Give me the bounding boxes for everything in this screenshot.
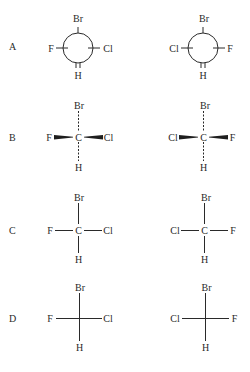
row-c: C Br C F Cl H Br C Cl F H	[9, 192, 236, 265]
atom-right: F	[230, 132, 236, 143]
row-d: D Br F Cl H Br Cl F H	[9, 282, 238, 353]
line-structure-right: Br C Cl F H	[170, 192, 236, 265]
newman-left: Br F Cl H	[48, 13, 113, 81]
atom-bottom: H	[199, 70, 206, 81]
atom-right: F	[227, 43, 233, 54]
wedge-bond-right	[209, 135, 228, 140]
atom-left: F	[48, 43, 54, 54]
wedge-bond-left	[54, 135, 73, 140]
atom-bottom: H	[76, 342, 83, 353]
wedge-dash-left: Br C F Cl H	[46, 100, 113, 173]
atom-top: Br	[199, 13, 210, 24]
atom-right: Cl	[103, 225, 113, 236]
atom-bottom: H	[75, 254, 82, 265]
atom-left: Cl	[170, 225, 180, 236]
atom-right: Cl	[104, 132, 114, 143]
atom-top: Br	[200, 100, 211, 111]
atom-center: C	[75, 132, 82, 143]
atom-left: F	[47, 313, 53, 324]
atom-top: Br	[74, 100, 85, 111]
fischer-left: Br F Cl H	[47, 282, 113, 353]
atom-center: C	[75, 225, 82, 236]
stereochemistry-figure: A Br F Cl H Br Cl F H B	[0, 0, 250, 372]
atom-bottom: H	[201, 254, 208, 265]
atom-center: C	[201, 225, 208, 236]
atom-bottom: H	[74, 70, 81, 81]
wedge-dash-right: Br C Cl F H	[168, 100, 235, 173]
row-label-d: D	[9, 313, 16, 324]
atom-left: Cl	[168, 132, 178, 143]
atom-top: Br	[73, 13, 84, 24]
atom-top: Br	[74, 192, 85, 203]
row-label-c: C	[9, 225, 16, 236]
atom-top: Br	[75, 282, 86, 293]
atom-bottom: H	[75, 162, 82, 173]
wedge-bond-right	[84, 135, 103, 140]
fischer-right: Br Cl F H	[170, 282, 237, 353]
atom-left: Cl	[170, 313, 180, 324]
row-label-a: A	[9, 41, 17, 52]
atom-left: F	[46, 132, 52, 143]
atom-center: C	[200, 132, 207, 143]
atom-top: Br	[201, 192, 212, 203]
atom-bottom: H	[202, 342, 209, 353]
atom-right: Cl	[103, 313, 113, 324]
wedge-bond-left	[179, 135, 198, 140]
atom-left: F	[47, 225, 53, 236]
newman-right: Br Cl F H	[169, 13, 233, 81]
atom-right: F	[230, 225, 236, 236]
atom-right: Cl	[103, 43, 113, 54]
atom-top: Br	[202, 282, 213, 293]
atom-right: F	[232, 313, 238, 324]
row-label-b: B	[9, 132, 16, 143]
row-b: B Br C F Cl H Br C Cl F H	[9, 100, 236, 173]
row-a: A Br F Cl H Br Cl F H	[9, 13, 233, 81]
atom-bottom: H	[200, 162, 207, 173]
line-structure-left: Br C F Cl H	[47, 192, 113, 265]
atom-left: Cl	[169, 43, 179, 54]
